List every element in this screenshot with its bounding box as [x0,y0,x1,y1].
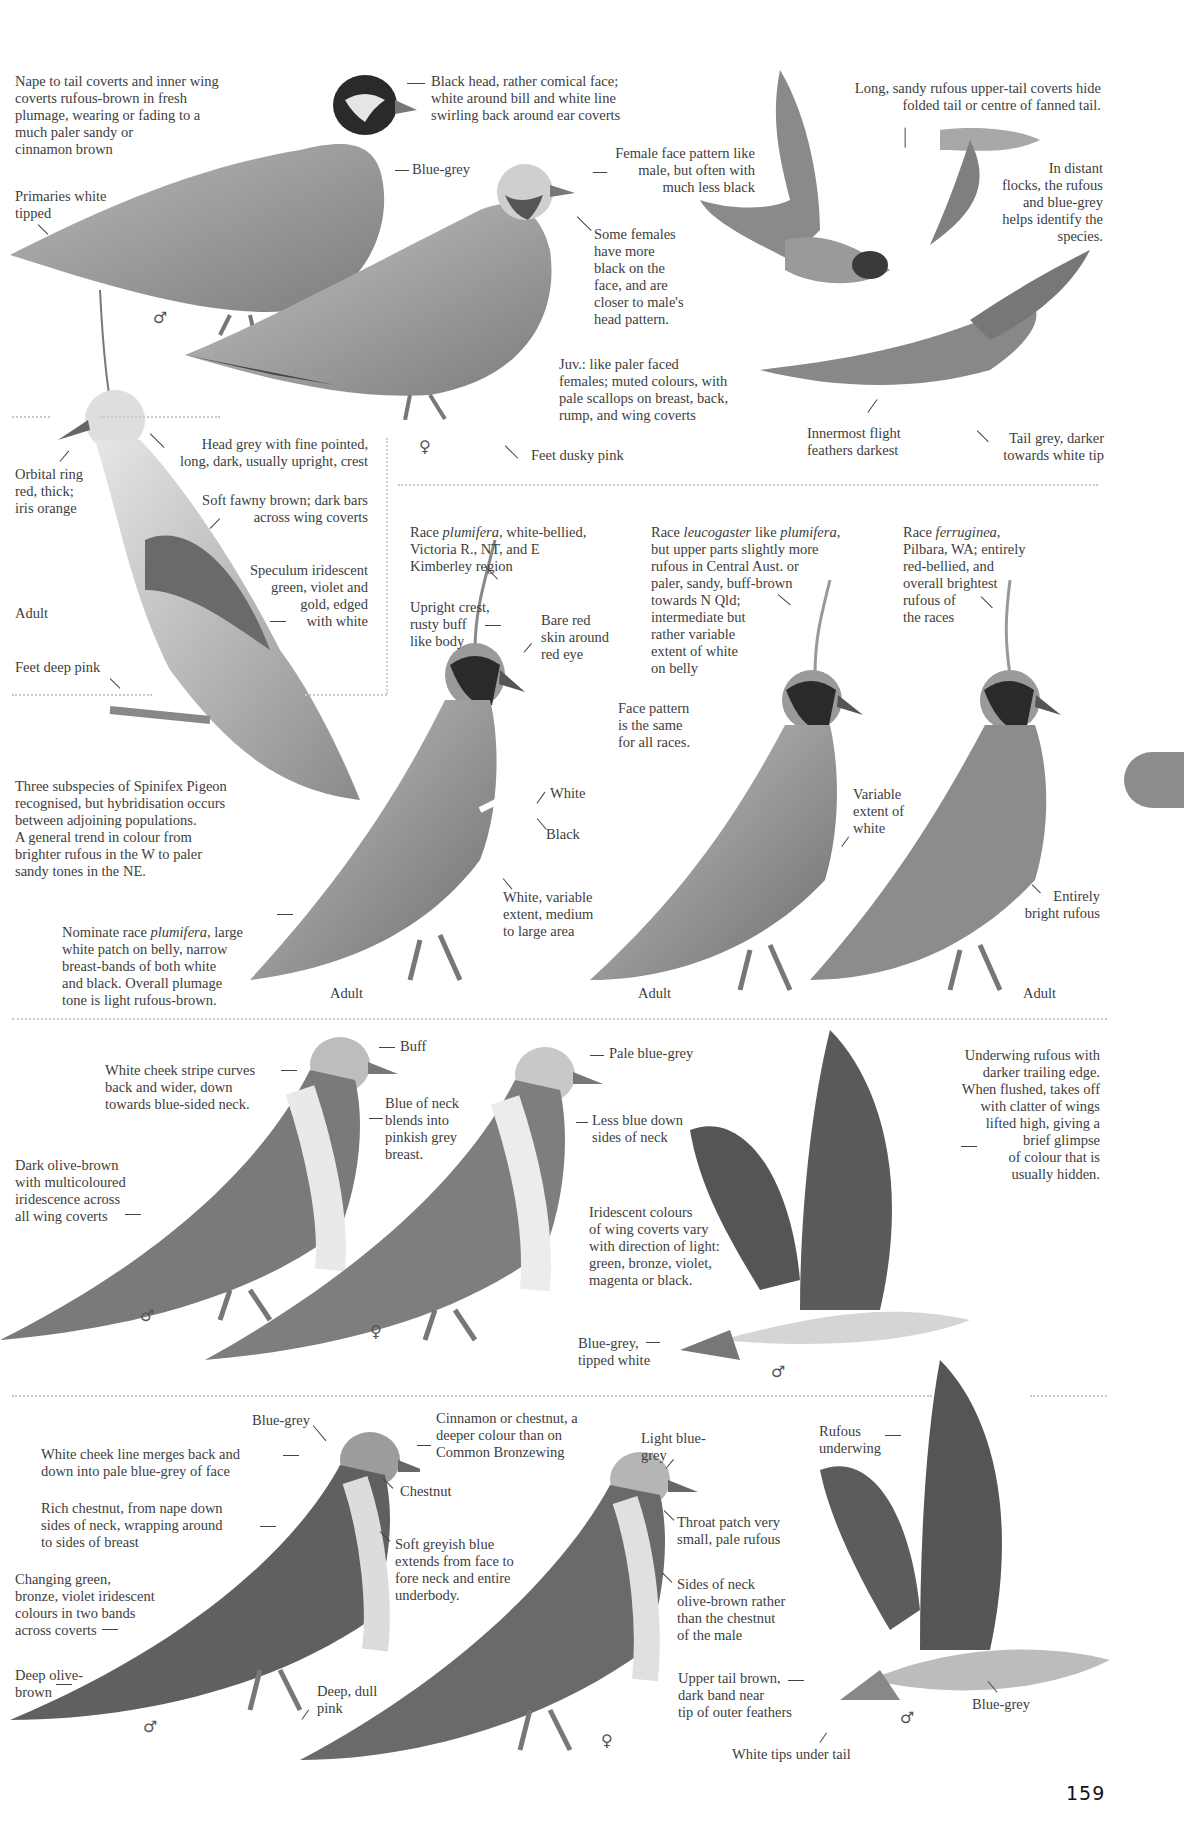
label-race-leucogaster: Race leucogaster like plumifera, but upp… [651,507,840,677]
label-nape: Nape to tail coverts and inner wing cove… [15,73,219,158]
text: Race [903,524,936,540]
label-white-variable-extent: White, variable extent, medium to large … [503,889,593,940]
label-blue-of-neck: Blue of neck blends into pinkish grey br… [385,1095,459,1163]
label-dark-olive-brown: Dark olive-brown with multicoloured irid… [15,1157,126,1225]
label-tail-grey: Tail grey, darker towards white tip [978,430,1104,464]
female-symbol: ♀ [601,1731,613,1750]
text: Nominate race [62,924,151,940]
label-deep-olive-brown: Deep olive- brown [15,1667,83,1701]
leader-line [277,914,293,915]
label-upright-crest: Upright crest, rusty buff like body [410,599,490,650]
label-black-band: Black [546,826,580,843]
label-innermost-flight-feathers: Innermost flight feathers darkest [807,425,901,459]
common-bronzewing-female-illustration [200,1040,620,1370]
leader-line [904,128,905,148]
label-blue-grey: Blue-grey [412,161,470,178]
label-deep-dull-pink: Deep, dull pink [317,1683,377,1717]
male-symbol-flight: ♂ [771,1362,785,1381]
label-feet-dusky-pink: Feet dusky pink [531,447,624,464]
leader-line [407,83,425,84]
female-symbol: ♀ [419,437,431,456]
separator-dotted [12,1395,932,1397]
label-white-band: White [550,785,585,802]
label-race-ferruginea: Race ferruginea, Pilbara, WA; entirely r… [903,507,1026,626]
leader-line [505,445,519,459]
leader-line [283,1455,299,1456]
leader-line [270,621,286,622]
leader-line [485,625,501,626]
leader-line [102,1629,118,1630]
label-underwing-rufous: Underwing rufous with darker trailing ed… [910,1047,1100,1183]
label-adult-1: Adult [330,985,363,1002]
label-changing-green: Changing green, bronze, violet iridescen… [15,1571,155,1639]
label-speculum: Speculum iridescent green, violet and go… [210,562,368,630]
label-buff: Buff [400,1038,426,1055]
race-name: plumifera, [151,924,211,940]
label-variable-extent-white: Variable extent of white [853,786,904,837]
separator-dotted [12,416,50,418]
label-sides-of-neck: Sides of neck olive-brown rather than th… [677,1576,785,1644]
race-name: plumifera, [443,524,503,540]
label-face-pattern: Face pattern is the same for all races. [618,700,690,751]
label-head-grey-crest: Head grey with fine pointed, long, dark,… [150,436,368,470]
label-upper-tail-brown: Upper tail brown, dark band near tip of … [678,1670,792,1721]
label-nominate-race: Nominate race plumifera, large white pat… [62,907,243,1009]
male-symbol-flight: ♂ [900,1708,914,1727]
label-rufous-underwing: Rufous underwing [819,1423,881,1457]
leader-line [260,1526,276,1527]
female-symbol: ♀ [370,1322,382,1341]
label-chestnut-throat: Chestnut [400,1483,452,1500]
leader-line [417,1445,431,1446]
text: Race [651,524,684,540]
text: like [751,524,780,540]
separator-dotted [305,694,387,696]
label-juvenile: Juv.: like paler faced females; muted co… [559,356,728,424]
label-cinnamon-chestnut: Cinnamon or chestnut, a deeper colour th… [436,1410,578,1461]
label-some-females: Some females have more black on the face… [594,226,684,328]
label-adult-3: Adult [1023,985,1056,1002]
separator-dotted [12,694,152,696]
label-iridescent-colours: Iridescent colours of wing coverts vary … [589,1204,720,1289]
leader-line [56,1684,72,1685]
label-rich-chestnut: Rich chestnut, from nape down sides of n… [41,1500,223,1551]
brush-bronzewing-female-illustration [300,1440,700,1780]
leader-line [281,1070,297,1071]
label-feet-deep-pink: Feet deep pink [15,659,100,676]
male-symbol: ♂ [143,1717,157,1736]
leader-line [369,1118,383,1119]
label-white-tips-under-tail: White tips under tail [732,1746,851,1763]
race-name: plumifera, [780,524,840,540]
separator-dotted-vertical [386,438,388,694]
label-soft-fawny: Soft fawny brown; dark bars across wing … [170,492,368,526]
label-cheek-stripe: White cheek stripe curves back and wider… [105,1062,255,1113]
separator-dotted [398,484,1098,486]
label-bare-red-skin: Bare red skin around red eye [541,612,609,663]
leader-line [788,1680,804,1681]
separator-dotted [12,1018,1107,1020]
separator-dotted [100,416,220,418]
text: Race [410,524,443,540]
page-number: 159 [1066,1782,1105,1804]
label-entirely-bright-rufous: Entirely bright rufous [990,888,1100,922]
label-race-plumifera: Race plumifera, white-bellied, Victoria … [410,507,586,575]
label-soft-greyish-blue: Soft greyish blue extends from face to f… [395,1536,514,1604]
label-primaries: Primaries white tipped [15,188,106,222]
label-female-face: Female face pattern like male, but often… [585,145,755,196]
leader-line [590,1055,604,1056]
label-flight-blue-grey: Blue-grey [972,1696,1030,1713]
leader-line [395,170,409,171]
label-black-head: Black head, rather comical face; white a… [431,73,620,124]
text: but upper parts slightly more rufous in … [651,541,819,676]
label-uppertail-coverts: Long, sandy rufous upper-tail coverts hi… [820,80,1101,114]
label-orbital-ring: Orbital ring red, thick; iris orange [15,466,83,517]
label-cheek-line: White cheek line merges back and down in… [41,1446,240,1480]
label-less-blue: Less blue down sides of neck [592,1112,683,1146]
text: Pilbara, WA; entirely red-bellied, and o… [903,541,1026,625]
male-symbol: ♂ [140,1306,154,1325]
leader-line [379,1047,395,1048]
label-adult: Adult [15,605,48,622]
label-blue-grey-crown: Blue-grey [220,1412,310,1429]
race-name: leucogaster [684,524,752,540]
label-throat-patch: Throat patch very small, pale rufous [677,1514,781,1548]
leader-line [885,1435,901,1436]
